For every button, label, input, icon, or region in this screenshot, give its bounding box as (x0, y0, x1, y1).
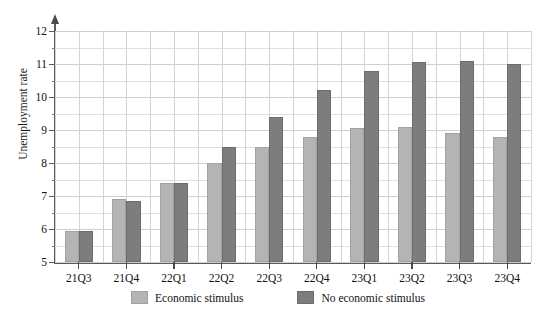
x-axis-label: 23Q2 (399, 272, 425, 284)
gridline-vertical (293, 31, 294, 262)
x-tick (173, 262, 174, 269)
y-tick-minor (52, 246, 56, 247)
x-tick (221, 262, 222, 269)
y-axis-label: 10 (36, 91, 48, 103)
bar (493, 137, 507, 262)
bar (460, 61, 474, 262)
bar (126, 201, 140, 262)
x-tick (411, 262, 412, 269)
x-axis-label: 22Q4 (304, 272, 330, 284)
chart-legend: Economic stimulusNo economic stimulus (0, 291, 556, 304)
chart-figure: — — — Unemployment rate 56789101112 21Q3… (0, 0, 556, 321)
gridline-vertical (483, 31, 484, 262)
bar (317, 90, 331, 262)
y-tick-minor (52, 81, 56, 82)
legend-label: Economic stimulus (155, 292, 243, 304)
y-tick-major (49, 64, 55, 65)
x-axis-label: 22Q3 (256, 272, 282, 284)
x-axis-label: 21Q4 (114, 272, 140, 284)
bar (350, 128, 364, 262)
y-axis-label: 9 (41, 124, 47, 136)
y-tick-major (49, 229, 55, 230)
y-axis-label: 12 (36, 25, 48, 37)
y-tick-minor (52, 48, 56, 49)
y-axis-title: Unemployment rate (17, 29, 29, 199)
legend-item: No economic stimulus (297, 291, 425, 304)
bar (222, 147, 236, 263)
x-axis-label: 23Q4 (494, 272, 520, 284)
bar (412, 62, 426, 262)
gridline-vertical (198, 31, 199, 262)
x-tick (507, 262, 508, 269)
x-tick (459, 262, 460, 269)
y-tick-minor (52, 180, 56, 181)
bar (269, 117, 283, 262)
y-axis-label: 8 (41, 157, 47, 169)
y-axis-label: 5 (41, 256, 47, 268)
legend-swatch (131, 291, 148, 304)
gridline-vertical (388, 31, 389, 262)
x-axis-label: 23Q1 (352, 272, 378, 284)
bar (364, 71, 378, 262)
y-axis-label: 6 (41, 223, 47, 235)
x-tick (78, 262, 79, 269)
y-axis-label: 7 (41, 190, 47, 202)
bar (160, 183, 174, 262)
bar (112, 199, 126, 262)
y-tick-minor (52, 114, 56, 115)
gridline-vertical (531, 31, 532, 262)
gridline-vertical (55, 31, 56, 262)
gridline-vertical-minor (79, 31, 80, 262)
y-axis-arrow-icon (51, 14, 59, 24)
legend-label: No economic stimulus (321, 292, 425, 304)
legend-item: Economic stimulus (131, 291, 243, 304)
gridline-vertical (103, 31, 104, 262)
y-tick-major (49, 262, 55, 263)
x-tick (269, 262, 270, 269)
clipped-caption-sliver: — — — (0, 0, 556, 3)
x-tick (126, 262, 127, 269)
bar (255, 147, 269, 263)
y-tick-minor (52, 147, 56, 148)
x-axis-label: 22Q2 (209, 272, 235, 284)
plot-area: 56789101112 21Q321Q422Q122Q222Q322Q423Q1… (55, 31, 531, 262)
bar (445, 133, 459, 262)
y-axis-label: 11 (36, 58, 47, 70)
x-axis-label: 22Q1 (161, 272, 187, 284)
bar (507, 64, 521, 262)
legend-swatch (297, 291, 314, 304)
y-tick-major (49, 130, 55, 131)
x-tick (364, 262, 365, 269)
gridline-vertical (436, 31, 437, 262)
y-tick-major (49, 196, 55, 197)
bar (79, 231, 93, 262)
gridline-vertical (150, 31, 151, 262)
y-tick-major (49, 163, 55, 164)
bar (207, 163, 221, 262)
bar (398, 127, 412, 262)
bar (65, 231, 79, 262)
gridline-vertical (341, 31, 342, 262)
y-tick-major (49, 31, 55, 32)
y-tick-minor (52, 213, 56, 214)
x-axis-label: 21Q3 (66, 272, 92, 284)
x-tick (316, 262, 317, 269)
x-axis-label: 23Q3 (447, 272, 473, 284)
gridline-vertical (245, 31, 246, 262)
y-tick-major (49, 97, 55, 98)
bar (303, 137, 317, 262)
bar (174, 183, 188, 262)
